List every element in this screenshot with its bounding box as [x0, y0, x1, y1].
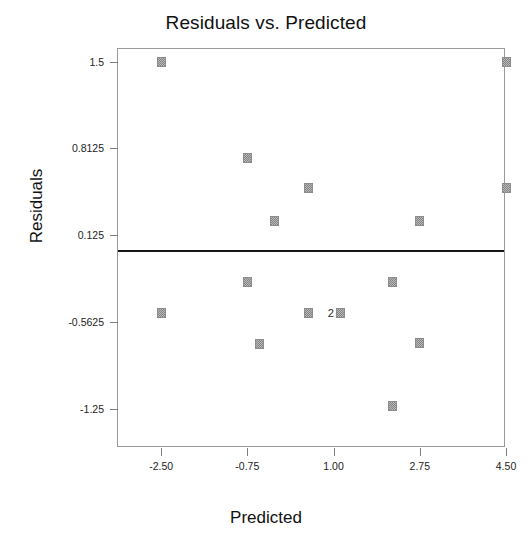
data-point-marker[interactable]	[255, 339, 264, 349]
chart-title: Residuals vs. Predicted	[0, 12, 532, 34]
x-axis-tick-label: 4.50	[496, 460, 516, 472]
data-point-marker[interactable]	[388, 401, 397, 411]
data-point-marker[interactable]	[415, 216, 424, 226]
data-point-marker[interactable]	[304, 308, 313, 318]
y-axis-tick	[110, 409, 118, 410]
y-axis-tick	[110, 62, 118, 63]
x-axis-tick-label: -2.50	[149, 460, 173, 472]
x-axis-tick-label: 1.00	[323, 460, 343, 472]
y-axis-tick-label: -0.5625	[68, 316, 104, 328]
data-point-marker[interactable]	[243, 153, 252, 163]
data-point-marker[interactable]	[415, 338, 424, 348]
reference-line	[118, 250, 504, 252]
y-axis-tick-label: 0.125	[78, 229, 104, 241]
data-point-marker[interactable]	[304, 183, 313, 193]
x-axis-tick	[420, 448, 421, 456]
y-axis-tick	[110, 148, 118, 149]
y-axis-tick-label: 0.8125	[72, 142, 104, 154]
x-axis-tick	[161, 448, 162, 456]
x-axis-tick	[247, 448, 248, 456]
x-axis-tick-label: 2.75	[410, 460, 430, 472]
y-axis-tick-label: 1.5	[89, 56, 104, 68]
data-point-marker[interactable]	[270, 216, 279, 226]
x-axis-tick-label: -0.75	[235, 460, 259, 472]
y-axis-tick	[110, 235, 118, 236]
data-point-marker[interactable]	[157, 308, 166, 318]
data-point-marker[interactable]	[157, 57, 166, 67]
chart-canvas: Residuals vs. Predicted Residuals Predic…	[0, 0, 532, 552]
y-axis-tick-label: -1.25	[80, 403, 104, 415]
plot-inner: 1.50.81250.125-0.5625-1.25-2.50-0.751.00…	[118, 49, 504, 446]
data-point-marker[interactable]	[336, 308, 345, 318]
x-axis-tick	[506, 448, 507, 456]
x-axis-tick	[334, 448, 335, 456]
x-axis-title: Predicted	[0, 508, 532, 528]
data-point-marker[interactable]	[243, 277, 252, 287]
y-axis-tick	[110, 322, 118, 323]
data-point-marker[interactable]	[502, 57, 511, 67]
data-point-marker[interactable]	[388, 277, 397, 287]
y-axis-title: Residuals	[27, 96, 47, 316]
data-point-marker[interactable]	[502, 183, 511, 193]
overlap-count-label: 2	[328, 307, 335, 319]
plot-area: 1.50.81250.125-0.5625-1.25-2.50-0.751.00…	[117, 48, 505, 447]
